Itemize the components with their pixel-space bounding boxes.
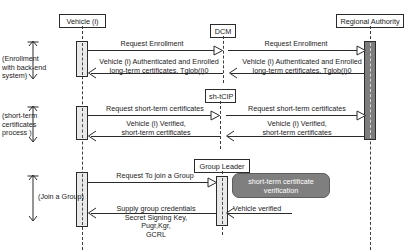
arrowhead-m7-vee-left bbox=[87, 130, 97, 142]
message-line-m5 bbox=[88, 115, 213, 116]
callout-short-term-certificate-verification: short-term certificate verification bbox=[232, 173, 330, 198]
activation-center-dash bbox=[82, 43, 83, 75]
message-text: Request Enrollment bbox=[264, 39, 327, 48]
message-label-m1: Request Enrollment bbox=[112, 40, 192, 49]
phase-text-line3: system) bbox=[2, 71, 27, 80]
activation-center-dash bbox=[82, 108, 83, 138]
message-text: Request Enrollment bbox=[120, 39, 183, 48]
message-line-m2 bbox=[228, 50, 362, 51]
message-line-m6 bbox=[226, 115, 362, 116]
activation-center-dash bbox=[222, 178, 223, 224]
phase-text-line1: (Join a Group) bbox=[38, 192, 84, 201]
message-line-m9 bbox=[88, 182, 213, 183]
lifeline-label-shtcip: sh-tCIP bbox=[209, 92, 233, 101]
arrowhead-m9-open-right bbox=[207, 177, 218, 188]
phase-text-line3: process ) bbox=[2, 128, 32, 137]
message-text-line2: long-term certificates, Tglob(i)0 bbox=[110, 66, 209, 75]
arrowhead-m8-vee-left bbox=[225, 130, 235, 142]
phase-label-enrollment: (Enrollment with back-end system) bbox=[2, 55, 54, 81]
arrowhead-m1-open-right bbox=[213, 45, 224, 56]
arrowhead-m6-open-right bbox=[356, 110, 367, 121]
callout-text-line2: verification bbox=[248, 186, 314, 195]
message-label-m7: Vehicle (i) Verified, short-term certifi… bbox=[100, 120, 212, 137]
phase-label-join-group: (Join a Group) bbox=[38, 193, 94, 202]
message-label-m8: Vehicle (i) Verified, short-term certifi… bbox=[240, 120, 354, 137]
message-text-line2: short-term certificates bbox=[121, 128, 190, 137]
message-label-m9: Request To join a Group bbox=[103, 172, 207, 181]
arrowhead-m2-open-right bbox=[356, 45, 367, 56]
message-text-line2: short-term certificates bbox=[262, 128, 331, 137]
sequence-diagram-canvas: Vehicle (i) DCM sh-tCIP Group Leader Reg… bbox=[0, 0, 408, 252]
message-text: Request short-term certificates bbox=[106, 104, 204, 113]
message-label-m3: Vehicle (i) Authenticated and Enrolled l… bbox=[93, 58, 225, 75]
callout-text-line1: short-term certificate bbox=[248, 177, 314, 186]
phase-label-short-term: (short-term certificates process ) bbox=[2, 112, 54, 138]
message-line-m1 bbox=[88, 50, 216, 51]
lifeline-label-regional-authority: Regional Authority bbox=[340, 17, 399, 26]
message-text-line2: long-term certificates, Tglob(i)0 bbox=[253, 66, 352, 75]
lifeline-label-dcm: DCM bbox=[215, 27, 232, 36]
message-label-m11: Vehicle verified bbox=[233, 205, 299, 214]
message-text-line4: GCRL bbox=[146, 230, 166, 239]
message-label-m10: Supply group credentials Secret Signing … bbox=[96, 205, 216, 239]
activation-center-dash bbox=[370, 43, 371, 138]
message-label-m5: Request short-term certificates bbox=[100, 105, 210, 114]
message-text: Request short-term certificates bbox=[248, 104, 346, 113]
lifeline-shtcip bbox=[220, 101, 221, 149]
message-text: Vehicle verified bbox=[233, 204, 281, 213]
message-label-m6: Request short-term certificates bbox=[240, 105, 354, 114]
message-label-m2: Request Enrollment bbox=[254, 40, 338, 49]
message-label-m4: Vehicle (i) Authenticated and Enrolled l… bbox=[236, 58, 368, 75]
message-text: Request To join a Group bbox=[116, 171, 193, 180]
lifeline-label-group-leader: Group Leader bbox=[199, 162, 244, 171]
lifeline-label-vehicle: Vehicle (i) bbox=[66, 17, 98, 26]
